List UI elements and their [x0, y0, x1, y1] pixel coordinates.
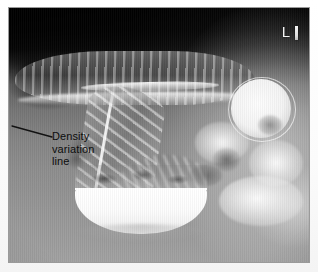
laterality-marker-group: L [282, 25, 298, 40]
air-fluid-level [75, 188, 207, 190]
barium-pool-shadow [72, 224, 210, 242]
laterality-marker-icon: L [282, 25, 290, 39]
barium-pool-gas [75, 165, 207, 189]
marker-pin-icon [295, 26, 298, 40]
annotation-line-3: line [52, 155, 114, 168]
gas-pocket-b [258, 115, 282, 135]
annotation-line-2: variation [52, 143, 114, 156]
annotation-line-1: Density [52, 130, 114, 143]
contrast-loop-lower-right [219, 176, 303, 227]
density-variation-label: Density variation line [52, 130, 114, 168]
figure-root: L Density variation line [0, 0, 318, 272]
